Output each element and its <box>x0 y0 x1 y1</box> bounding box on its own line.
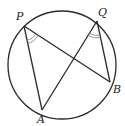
label-B: B <box>112 83 121 96</box>
diagram: P Q B A <box>0 0 125 126</box>
label-A: A <box>36 113 45 126</box>
chord-PA <box>24 26 42 110</box>
angle-mark-Q-inner <box>89 33 100 35</box>
chord-PB <box>24 26 110 82</box>
label-P: P <box>15 10 24 23</box>
label-Q: Q <box>98 6 107 19</box>
chord-QA <box>42 21 97 110</box>
angle-mark-P-outer <box>28 35 39 43</box>
